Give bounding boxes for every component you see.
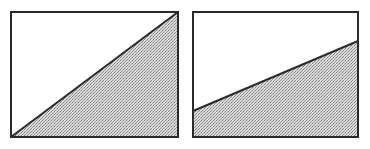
diagram-canvas	[0, 0, 370, 149]
right-panel	[193, 12, 358, 137]
left-panel	[11, 12, 178, 137]
diagram-svg	[0, 0, 370, 149]
